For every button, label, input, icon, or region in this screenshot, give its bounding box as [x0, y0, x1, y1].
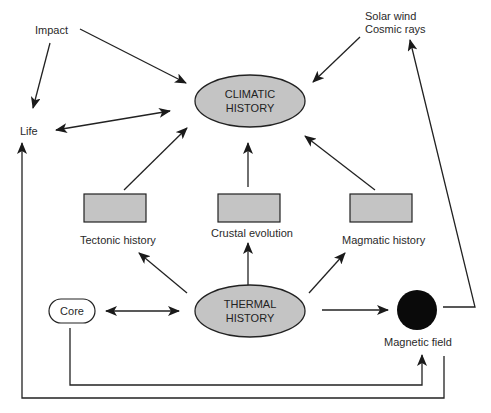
edge-impact-to-life	[33, 43, 50, 108]
edge-solarwind-to-climatic	[313, 37, 360, 82]
climatic-history-ellipse	[195, 75, 305, 127]
magnetic-field-label: Magnetic field	[384, 336, 452, 348]
diagram-svg: CLIMATIC HISTORY THERMAL HISTORY Impact …	[0, 0, 491, 413]
magnetic-field-circle	[397, 290, 437, 330]
solar-wind-label: Solar wind	[365, 10, 416, 22]
edge-impact-to-climatic	[80, 29, 186, 83]
tectonic-history-label: Tectonic history	[80, 234, 156, 246]
edge-thermal-to-tectonic	[139, 253, 187, 293]
core-label: Core	[60, 305, 84, 317]
crustal-evolution-box	[218, 194, 280, 222]
climatic-history-label-line2: HISTORY	[226, 102, 275, 114]
diagram-canvas: CLIMATIC HISTORY THERMAL HISTORY Impact …	[0, 0, 491, 413]
cosmic-rays-label: Cosmic rays	[365, 23, 426, 35]
edge-magnetic-to-life	[22, 143, 444, 398]
thermal-history-ellipse	[195, 285, 305, 337]
tectonic-history-box	[84, 194, 146, 222]
edge-magnetic-to-solarwind	[410, 40, 475, 307]
edge-life-climatic	[56, 111, 170, 130]
crustal-evolution-label: Crustal evolution	[211, 227, 293, 239]
thermal-history-label-line2: HISTORY	[226, 312, 275, 324]
edge-magmatic-to-climatic	[305, 136, 375, 190]
magmatic-history-box	[350, 194, 412, 222]
node-climatic-history: CLIMATIC HISTORY	[195, 75, 305, 127]
node-core: Core	[49, 299, 95, 323]
thermal-history-label-line1: THERMAL	[224, 298, 277, 310]
impact-label: Impact	[35, 24, 68, 36]
edge-thermal-to-magmatic	[309, 253, 345, 293]
edge-tectonic-to-climatic	[124, 128, 187, 190]
life-label: Life	[20, 125, 38, 137]
node-thermal-history: THERMAL HISTORY	[195, 285, 305, 337]
climatic-history-label-line1: CLIMATIC	[225, 88, 276, 100]
magmatic-history-label: Magmatic history	[342, 234, 426, 246]
